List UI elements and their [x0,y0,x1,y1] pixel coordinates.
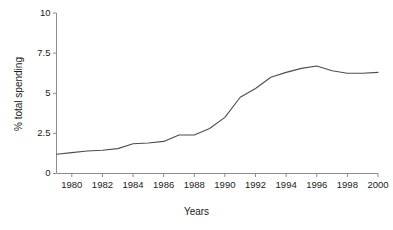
y-tick-label: 2.5 [37,128,50,138]
line-chart-plot [0,0,393,230]
y-axis-ticks [53,13,57,174]
x-tick-label: 1980 [56,180,88,190]
x-tick-label: 2000 [362,180,393,190]
y-tick-label: 5 [45,88,50,98]
chart-container: 02.557.510 19801982198419861988199019921… [0,0,393,230]
y-tick-label: 7.5 [37,48,50,58]
x-tick-label: 1986 [148,180,180,190]
y-axis-title: % total spending [14,57,24,131]
y-tick-label: 10 [40,8,51,18]
x-axis-title: Years [0,207,393,217]
x-tick-label: 1998 [331,180,363,190]
x-axis-ticks [72,174,378,178]
x-tick-label: 1992 [240,180,272,190]
x-tick-label: 1982 [86,180,118,190]
x-tick-label: 1988 [178,180,210,190]
y-tick-label: 0 [45,168,50,178]
x-tick-label: 1984 [117,180,149,190]
x-tick-label: 1996 [301,180,333,190]
data-series-line [57,66,379,154]
x-tick-label: 1990 [209,180,241,190]
x-tick-label: 1994 [270,180,302,190]
